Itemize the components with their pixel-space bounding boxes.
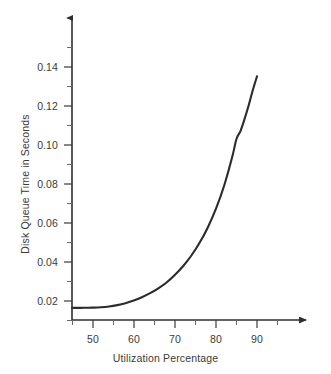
chart-container: 0.02 0.04 0.06 0.08 0.10 0.12 0.14 50 60… [0, 0, 331, 374]
x-tick-label: 90 [242, 334, 272, 345]
x-tick-label: 80 [201, 334, 231, 345]
y-tick-label: 0.02 [24, 296, 58, 307]
x-tick-label: 60 [119, 334, 149, 345]
y-tick-label: 0.14 [24, 62, 58, 73]
y-axis-major-ticks [64, 67, 72, 301]
x-axis-title: Utilization Percentage [0, 352, 331, 364]
data-series-line [72, 76, 257, 307]
x-tick-label: 70 [160, 334, 190, 345]
x-tick-label: 50 [78, 334, 108, 345]
x-axis-major-ticks [93, 320, 257, 328]
y-axis-title: Disk Queue Time in Seconds [19, 74, 31, 294]
